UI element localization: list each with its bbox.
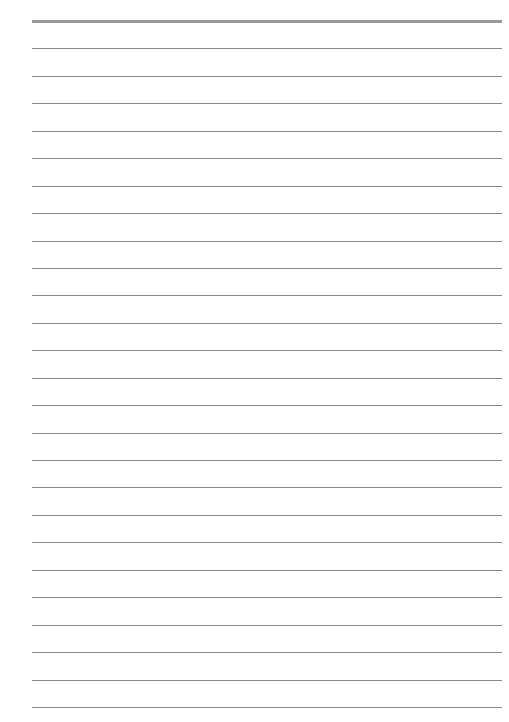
ruled-line [32,460,502,461]
ruled-line [32,515,502,516]
header-rule-line [32,20,502,23]
ruled-line [32,350,502,351]
ruled-line [32,295,502,296]
ruled-line [32,570,502,571]
lined-paper-page [0,0,509,722]
ruled-line [32,158,502,159]
ruled-line [32,597,502,598]
ruled-line [32,76,502,77]
ruled-line [32,48,502,49]
ruled-line [32,487,502,488]
ruled-line [32,103,502,104]
ruled-line [32,652,502,653]
ruled-line [32,625,502,626]
ruled-line [32,213,502,214]
ruled-line [32,241,502,242]
ruled-line [32,323,502,324]
ruled-line [32,433,502,434]
ruled-line [32,186,502,187]
ruled-line [32,378,502,379]
ruled-line [32,707,502,708]
ruled-line [32,131,502,132]
ruled-line [32,405,502,406]
ruled-line [32,680,502,681]
ruled-line [32,268,502,269]
ruled-line [32,542,502,543]
